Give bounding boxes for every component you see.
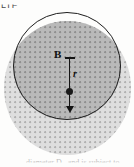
cropped-header-text: LTF: [1, 0, 18, 10]
cropped-caption-text: diameter D , and is subject to: [26, 159, 134, 167]
radius-arrow-head: [66, 106, 74, 113]
circular-loop-outline: [13, 12, 121, 120]
figure-canvas: LTF B r diameter D , and is subject to: [0, 0, 134, 167]
magnetic-field-label: B: [54, 49, 61, 60]
radius-arrow-shaft: [69, 58, 70, 110]
radius-label: r: [73, 69, 77, 79]
